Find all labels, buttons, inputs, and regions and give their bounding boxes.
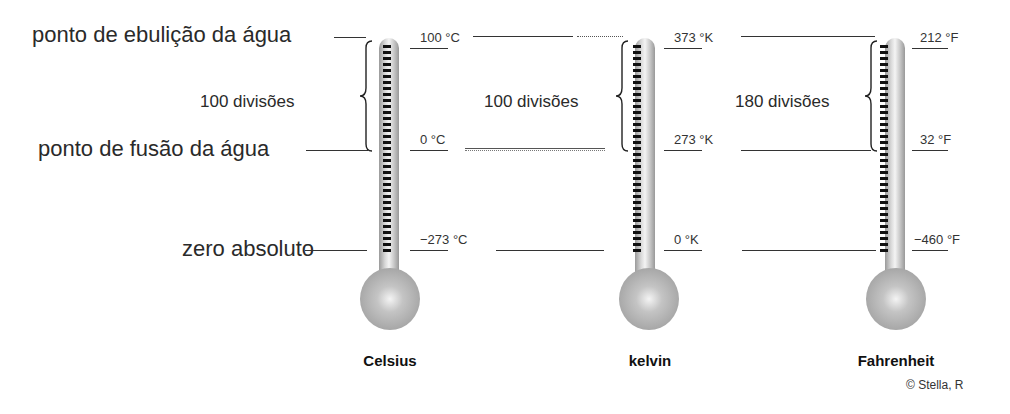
absolute-zero-connector-line (496, 250, 604, 251)
kelvin-fusion-tick (664, 150, 702, 151)
kelvin-absolute-zero-value: 0 °K (674, 232, 699, 247)
fahrenheit-divisions-brace (863, 40, 883, 152)
fusion-connector-line (465, 148, 605, 151)
boiling-connector-line (473, 36, 573, 37)
fahrenheit-tube (885, 38, 905, 278)
kelvin-fusion-value: 273 °K (674, 132, 713, 147)
celsius-boiling-value: 100 °C (420, 30, 460, 45)
celsius-scale-ticks (383, 45, 391, 252)
celsius-boiling-tick (410, 48, 448, 49)
kelvin-boiling-tick (664, 48, 702, 49)
kelvin-divisions-brace (614, 40, 634, 152)
fahrenheit-scale-name: Fahrenheit (836, 352, 956, 369)
celsius-bulb (360, 268, 420, 330)
fahrenheit-fusion-value: 32 °F (920, 132, 951, 147)
fahrenheit-absolute-zero-tick (912, 250, 948, 251)
fahrenheit-divisions-label: 180 divisões (735, 92, 830, 112)
fahrenheit-boiling-tick (912, 48, 948, 49)
celsius-absolute-zero-tick (410, 250, 448, 251)
fusion-point-label: ponto de fusão da água (38, 136, 269, 162)
fahrenheit-fusion-tick (912, 150, 948, 151)
celsius-absolute-zero-value: −273 °C (420, 232, 467, 247)
kelvin-scale-ticks (633, 45, 641, 252)
boiling-point-label: ponto de ebulição da água (32, 22, 291, 48)
celsius-fusion-tick (410, 150, 448, 151)
kelvin-fahrenheit-absolute-zero-line (742, 250, 876, 251)
kelvin-boiling-value: 373 °K (674, 30, 713, 45)
absolute-zero-label: zero absoluto (182, 236, 314, 262)
absolute-zero-leader-line (305, 250, 367, 251)
image-credit: © Stella, R (906, 378, 964, 392)
kelvin-absolute-zero-tick (664, 250, 702, 251)
kelvin-scale-name: kelvin (600, 352, 700, 369)
kelvin-fahrenheit-boiling-line (741, 36, 875, 37)
fahrenheit-boiling-value: 212 °F (920, 30, 958, 45)
fahrenheit-absolute-zero-value: −460 °F (914, 232, 960, 247)
fahrenheit-bulb (866, 268, 926, 330)
boiling-leader-line (334, 37, 366, 38)
boiling-connector-dotted (577, 36, 623, 37)
celsius-divisions-label: 100 divisões (200, 92, 295, 112)
celsius-divisions-brace (358, 40, 378, 152)
kelvin-bulb (619, 268, 679, 330)
kelvin-divisions-label: 100 divisões (484, 92, 579, 112)
celsius-scale-name: Celsius (340, 352, 440, 369)
celsius-fusion-value: 0 °C (420, 132, 445, 147)
kelvin-fahrenheit-fusion-line (741, 150, 871, 151)
